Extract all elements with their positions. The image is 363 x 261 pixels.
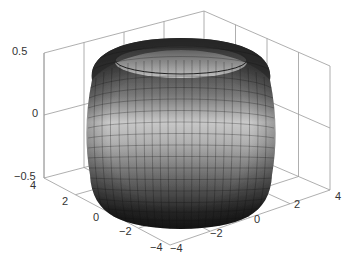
x-tick-label: −4 (170, 243, 183, 254)
torus-surface (80, 30, 280, 235)
y-tick-label: 2 (62, 196, 68, 207)
x-tick-label: −2 (210, 228, 223, 239)
surface-plot (0, 0, 363, 261)
z-tick-label: 0 (32, 108, 38, 119)
y-tick-label: −2 (119, 226, 132, 237)
y-tick-label: −4 (150, 242, 163, 253)
z-tick-label: 0.5 (12, 46, 27, 57)
x-tick-label: 4 (335, 191, 341, 202)
y-tick-label: 0 (93, 212, 99, 223)
y-tick-label: 4 (30, 180, 36, 191)
x-tick-label: 0 (254, 214, 260, 225)
x-tick-label: 2 (294, 199, 300, 210)
